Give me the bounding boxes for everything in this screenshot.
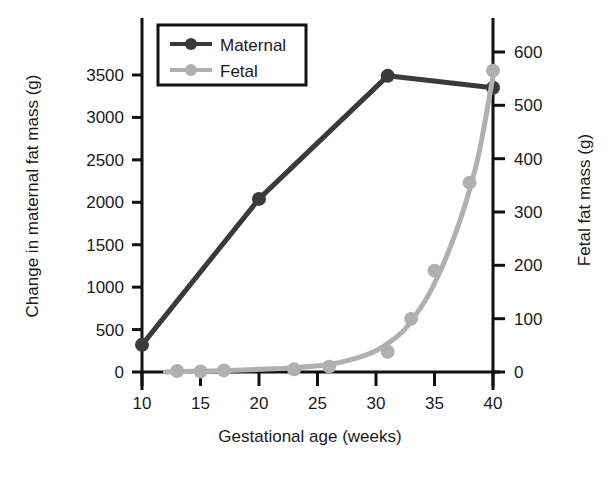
left-y-tick-label: 3000 xyxy=(86,108,124,127)
legend-marker-fetal xyxy=(185,64,197,76)
right-y-tick-label: 300 xyxy=(514,203,542,222)
data-point-fetal xyxy=(486,64,500,78)
left-y-tick-label: 1000 xyxy=(86,278,124,297)
data-point-maternal xyxy=(135,338,149,352)
x-tick-label: 40 xyxy=(484,394,503,413)
data-point-fetal xyxy=(463,176,477,190)
right-y-tick-label: 200 xyxy=(514,256,542,275)
right-y-axis-title: Fetal fat mass (g) xyxy=(575,134,594,266)
data-point-fetal xyxy=(428,264,442,278)
data-point-fetal xyxy=(404,312,418,326)
data-point-fetal xyxy=(170,364,184,378)
right-y-tick-label: 100 xyxy=(514,310,542,329)
data-point-fetal xyxy=(194,364,208,378)
data-point-maternal xyxy=(252,192,266,206)
data-point-fetal xyxy=(217,363,231,377)
left-y-tick-label: 3500 xyxy=(86,66,124,85)
x-tick-label: 10 xyxy=(133,394,152,413)
legend-label-fetal: Fetal xyxy=(220,62,258,81)
left-y-tick-label: 1500 xyxy=(86,236,124,255)
x-tick-label: 20 xyxy=(250,394,269,413)
data-point-fetal xyxy=(287,362,301,376)
x-tick-label: 25 xyxy=(308,394,327,413)
chart-figure: 0500100015002000250030003500 01002003004… xyxy=(0,0,614,481)
left-y-tick-label: 500 xyxy=(96,321,124,340)
left-y-tick-label: 0 xyxy=(115,363,124,382)
left-y-tick-label: 2500 xyxy=(86,151,124,170)
legend: Maternal Fetal xyxy=(158,25,306,85)
right-y-tick-label: 400 xyxy=(514,150,542,169)
x-tick-label: 35 xyxy=(425,394,444,413)
data-point-fetal xyxy=(381,345,395,359)
chart-canvas: 0500100015002000250030003500 01002003004… xyxy=(0,0,614,481)
left-y-tick-label: 2000 xyxy=(86,193,124,212)
left-y-axis-title: Change in maternal fat mass (g) xyxy=(23,75,42,318)
data-point-fetal xyxy=(322,360,336,374)
right-y-tick-label: 600 xyxy=(514,43,542,62)
x-tick-label: 30 xyxy=(367,394,386,413)
right-y-tick-label: 500 xyxy=(514,96,542,115)
legend-marker-maternal xyxy=(185,38,197,50)
x-axis-title: Gestational age (weeks) xyxy=(218,427,401,446)
data-point-maternal xyxy=(381,69,395,83)
right-y-tick-label: 0 xyxy=(514,363,523,382)
x-tick-label: 15 xyxy=(191,394,210,413)
legend-label-maternal: Maternal xyxy=(220,36,286,55)
